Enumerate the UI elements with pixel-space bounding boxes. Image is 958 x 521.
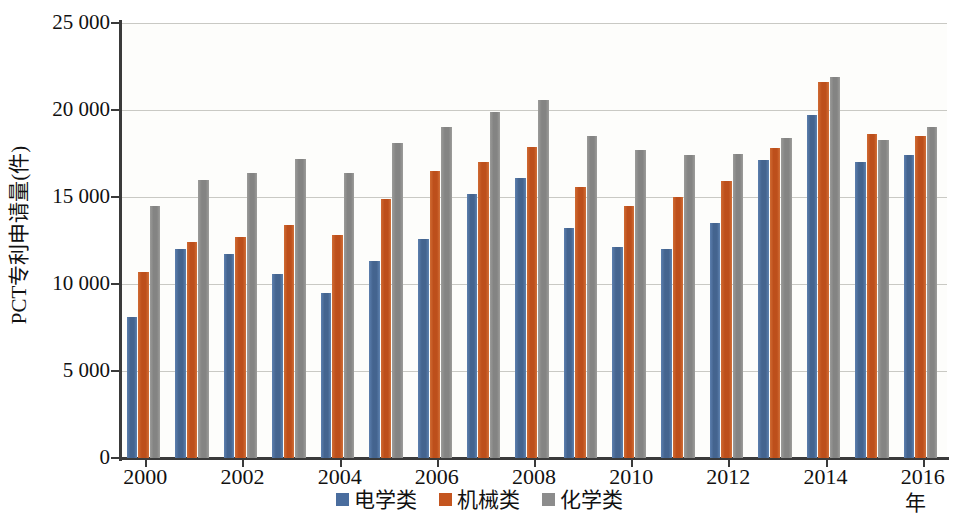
bar	[624, 206, 635, 458]
y-tick-label-wrap: 0	[0, 447, 110, 468]
bar	[321, 293, 332, 458]
bar	[673, 197, 684, 458]
bar	[855, 162, 866, 458]
legend-swatch-icon	[336, 493, 349, 506]
pct-patent-applications-bar-chart: PCT专利申请量(件) 05 00010 00015 00020 00025 0…	[0, 0, 958, 521]
y-axis-title: PCT专利申请量(件)	[0, 0, 34, 470]
bar	[538, 100, 549, 458]
y-axis-title-text: PCT专利申请量(件)	[2, 146, 32, 325]
legend-swatch-icon	[439, 493, 452, 506]
bar	[272, 274, 283, 458]
y-tick-label-wrap: 5 000	[0, 360, 110, 381]
y-tick-label: 15 000	[5, 186, 110, 207]
x-axis-title: 年	[905, 492, 926, 513]
y-tick-label-wrap: 25 000	[0, 12, 110, 33]
x-tick-label: 2006	[397, 464, 477, 490]
x-tick-label: 2004	[300, 464, 380, 490]
bar	[392, 143, 403, 458]
bar	[247, 173, 258, 458]
bar	[830, 77, 841, 458]
bar	[138, 272, 149, 458]
bar	[478, 162, 489, 458]
bar	[710, 223, 721, 458]
bar	[127, 317, 138, 458]
bar	[369, 261, 380, 458]
x-tick-label: 2010	[591, 464, 671, 490]
x-tick-label: 2012	[688, 464, 768, 490]
y-tick-label: 25 000	[5, 12, 110, 33]
bar	[381, 199, 392, 458]
x-tick-label: 2000	[105, 464, 185, 490]
legend-item-1[interactable]: 机械类	[439, 489, 520, 510]
bar	[587, 136, 598, 458]
legend-item-0[interactable]: 电学类	[336, 489, 417, 510]
bar	[635, 150, 646, 458]
bar	[175, 249, 186, 458]
y-tick-label-wrap: 20 000	[0, 99, 110, 120]
bar	[781, 138, 792, 458]
legend-label: 机械类	[457, 489, 520, 510]
bar	[198, 180, 209, 458]
x-tick-label: 2014	[786, 464, 866, 490]
legend-swatch-icon	[542, 493, 555, 506]
bar	[490, 112, 501, 458]
bar	[758, 160, 769, 458]
x-tick-label: 2002	[202, 464, 282, 490]
bar	[527, 147, 538, 458]
bar	[915, 136, 926, 458]
y-tick-label-wrap: 10 000	[0, 273, 110, 294]
legend-label: 电学类	[354, 489, 417, 510]
bar	[807, 115, 818, 458]
bar	[733, 154, 744, 459]
bar	[284, 225, 295, 458]
legend-label: 化学类	[560, 489, 623, 510]
bar	[441, 127, 452, 458]
bar	[904, 155, 915, 458]
x-tick-label: 2016	[883, 464, 958, 490]
y-tick-label: 20 000	[5, 99, 110, 120]
bar	[344, 173, 355, 458]
bar	[575, 187, 586, 458]
bar	[564, 228, 575, 458]
bar	[467, 194, 478, 458]
bar	[418, 239, 429, 458]
bar	[332, 235, 343, 458]
bar	[295, 159, 306, 458]
bars-layer	[121, 23, 947, 458]
bar	[867, 134, 878, 458]
bar	[927, 127, 938, 458]
bar	[515, 178, 526, 458]
bar	[684, 155, 695, 458]
bar	[612, 247, 623, 458]
y-tick-label: 0	[5, 447, 110, 468]
bar	[187, 242, 198, 458]
legend-item-2[interactable]: 化学类	[542, 489, 623, 510]
y-tick-label-wrap: 15 000	[0, 186, 110, 207]
bar	[224, 254, 235, 458]
bar	[235, 237, 246, 458]
y-tick-label: 5 000	[5, 360, 110, 381]
bar	[878, 140, 889, 458]
bar	[721, 181, 732, 458]
bar	[770, 148, 781, 458]
bar	[818, 82, 829, 458]
bar	[150, 206, 161, 458]
x-tick-label: 2008	[494, 464, 574, 490]
bar	[661, 249, 672, 458]
legend: 电学类机械类化学类	[0, 489, 958, 510]
y-tick-label: 10 000	[5, 273, 110, 294]
bar	[430, 171, 441, 458]
